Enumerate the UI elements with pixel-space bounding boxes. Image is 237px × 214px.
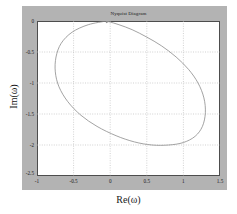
nyquist-plot [37, 21, 220, 176]
y-tick-label: -1.5 [20, 111, 34, 117]
x-tick-label: -0.5 [63, 178, 85, 184]
x-tick-label: 1.5 [209, 178, 231, 184]
x-axis-label: Re(ω) [37, 194, 220, 205]
figure-window: Nyquist Diagram Re(ω) Im(ω) -1 -0.5 0 0.… [0, 0, 237, 214]
y-tick-label: -2 [20, 142, 34, 148]
y-axis-label: Im(ω) [8, 52, 19, 142]
x-tick-label: -1 [26, 178, 48, 184]
x-tick-label: 1 [172, 178, 194, 184]
x-tick-label: 0.5 [136, 178, 158, 184]
chart-title: Nyquist Diagram [37, 11, 220, 16]
y-tick-label: -2.5 [20, 170, 34, 176]
x-tick-label: 0 [99, 178, 121, 184]
nyquist-curve [55, 21, 205, 145]
y-tick-label: -0.5 [20, 49, 34, 55]
y-tick-label: -1 [20, 80, 34, 86]
y-tick-label: 0 [20, 18, 34, 24]
